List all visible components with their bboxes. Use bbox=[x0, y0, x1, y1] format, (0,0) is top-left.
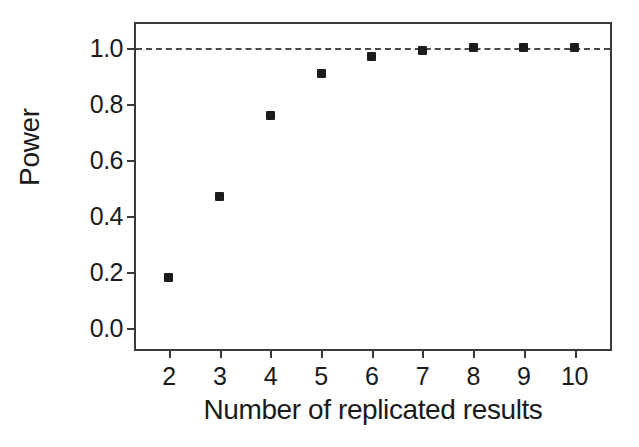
data-point bbox=[317, 69, 326, 78]
y-axis-tick-label: 0.8 bbox=[90, 89, 123, 118]
x-axis-tick-label: 4 bbox=[264, 362, 277, 391]
x-axis-tick bbox=[220, 349, 222, 358]
plot-area: 0.00.20.40.60.81.02345678910 bbox=[134, 22, 612, 351]
reference-line-power-ceiling bbox=[136, 48, 610, 50]
y-axis-tick bbox=[127, 272, 136, 274]
y-axis-title: Power bbox=[14, 108, 46, 186]
y-axis-tick bbox=[127, 216, 136, 218]
data-point bbox=[418, 46, 427, 55]
x-axis-tick-label: 7 bbox=[416, 362, 429, 391]
x-axis-tick-label: 8 bbox=[466, 362, 479, 391]
y-axis-tick-label: 0.4 bbox=[90, 201, 123, 230]
y-axis-tick bbox=[127, 104, 136, 106]
x-axis-tick bbox=[473, 349, 475, 358]
x-axis-tick-label: 3 bbox=[213, 362, 226, 391]
x-axis-tick bbox=[169, 349, 171, 358]
x-axis-tick-label: 9 bbox=[517, 362, 530, 391]
chart-figure: Power Number of replicated results 0.00.… bbox=[0, 0, 639, 447]
x-axis-tick-label: 6 bbox=[365, 362, 378, 391]
x-axis-tick bbox=[524, 349, 526, 358]
x-axis-tick bbox=[372, 349, 374, 358]
data-point bbox=[469, 43, 478, 52]
data-point bbox=[266, 111, 275, 120]
y-axis-tick bbox=[127, 48, 136, 50]
data-point bbox=[570, 43, 579, 52]
x-axis-tick bbox=[422, 349, 424, 358]
y-axis-tick-label: 0.2 bbox=[90, 257, 123, 286]
x-axis-tick bbox=[270, 349, 272, 358]
x-axis-tick bbox=[575, 349, 577, 358]
y-axis-tick-label: 1.0 bbox=[90, 33, 123, 62]
x-axis-tick bbox=[321, 349, 323, 358]
y-axis-tick-label: 0.0 bbox=[90, 313, 123, 342]
data-point bbox=[519, 43, 528, 52]
data-point bbox=[215, 192, 224, 201]
x-axis-title: Number of replicated results bbox=[134, 394, 612, 426]
y-axis-tick-label: 0.6 bbox=[90, 145, 123, 174]
x-axis-tick-label: 2 bbox=[162, 362, 175, 391]
y-axis-tick bbox=[127, 160, 136, 162]
x-axis-tick-label: 10 bbox=[561, 362, 588, 391]
x-axis-tick-label: 5 bbox=[314, 362, 327, 391]
y-axis-tick bbox=[127, 328, 136, 330]
data-point bbox=[367, 52, 376, 61]
data-point bbox=[164, 273, 173, 282]
